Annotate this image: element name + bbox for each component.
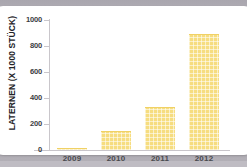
y-axis-tick-label: 200 (8, 120, 42, 128)
bar-2011[interactable] (145, 107, 175, 150)
bottom-edge-strip (0, 161, 247, 167)
bar-2012[interactable] (189, 34, 219, 150)
chart-card: LATERNEN (X 1000 STÜCK) 0200400600800100… (0, 6, 247, 155)
chart-frame: LATERNEN (X 1000 STÜCK) 0200400600800100… (0, 0, 247, 167)
bar-slot (189, 20, 219, 150)
y-axis-tick-label: 600 (8, 68, 42, 76)
bar-2010[interactable] (101, 131, 131, 150)
y-axis-tick-label: 1000 (8, 16, 42, 24)
plot-area (50, 20, 226, 150)
bar-slot (145, 20, 175, 150)
x-axis-line (34, 150, 230, 151)
bar-slot (101, 20, 131, 150)
bar-2009[interactable] (57, 148, 87, 151)
y-axis-tick-label: 800 (8, 42, 42, 50)
y-axis-tick (44, 150, 50, 151)
y-axis-tick-labels: 02004006008001000 (6, 6, 42, 167)
y-axis-tick-label: 0 (8, 146, 42, 154)
bar-slot (57, 20, 87, 150)
y-axis-tick-label: 400 (8, 94, 42, 102)
